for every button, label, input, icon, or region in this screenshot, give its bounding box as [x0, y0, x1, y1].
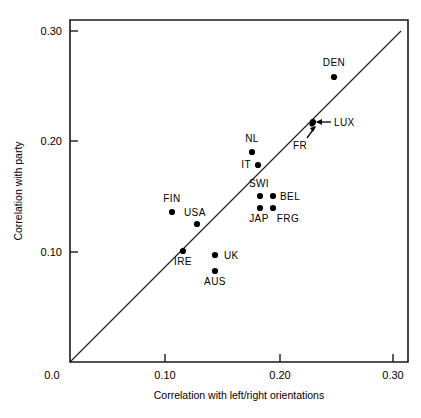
plot-canvas: 0.30 0.20 0.10 0.0 0.10 0.20 0.30 Correl…	[0, 0, 421, 418]
data-point-fin: FIN	[163, 193, 180, 215]
marker-uk	[212, 252, 218, 258]
marker-usa	[194, 221, 200, 227]
marker-den	[331, 74, 337, 80]
point-label-lux: LUX	[334, 117, 355, 128]
scatter-plot-figure: 0.30 0.20 0.10 0.0 0.10 0.20 0.30 Correl…	[0, 0, 421, 418]
y-axis-title: Correlation with party	[12, 141, 24, 241]
data-point-frg: FRG	[270, 205, 299, 224]
marker-aus	[212, 268, 218, 274]
point-label-jap: JAP	[249, 213, 269, 224]
point-label-fr: FR	[293, 140, 307, 151]
data-point-bel: BEL	[270, 191, 300, 202]
x-tick-label-010: 0.10	[154, 369, 175, 381]
y-tick-label-020: 0.20	[41, 135, 62, 147]
data-point-ire: IRE	[174, 248, 192, 267]
data-point-den: DEN	[323, 57, 345, 80]
data-point-lux-fr: LUX FR	[293, 117, 355, 151]
marker-fin	[169, 209, 175, 215]
point-label-aus: AUS	[204, 276, 226, 287]
point-label-nl: NL	[245, 133, 259, 144]
marker-swi	[257, 193, 263, 199]
data-point-uk: UK	[212, 250, 239, 261]
lux-arrow-head	[316, 119, 322, 125]
data-point-aus: AUS	[204, 268, 226, 287]
data-point-swi: SWI	[249, 178, 269, 199]
point-label-uk: UK	[224, 250, 239, 261]
x-axis-ticks	[165, 354, 393, 362]
point-label-frg: FRG	[277, 213, 299, 224]
point-label-bel: BEL	[280, 191, 300, 202]
y-tick-label-030: 0.30	[41, 25, 62, 37]
marker-frg	[270, 205, 276, 211]
data-point-usa: USA	[184, 207, 206, 227]
y-axis-ticks	[70, 31, 78, 252]
marker-nl	[249, 149, 255, 155]
data-point-jap: JAP	[249, 205, 269, 224]
data-point-nl: NL	[245, 133, 259, 155]
marker-bel	[270, 193, 276, 199]
x-tick-label-020: 0.20	[269, 369, 290, 381]
identity-reference-line	[70, 31, 401, 362]
point-label-den: DEN	[323, 57, 345, 68]
y-tick-label-010: 0.10	[41, 246, 62, 258]
x-tick-label-030: 0.30	[382, 369, 403, 381]
point-label-it: IT	[241, 159, 251, 170]
x-axis-title: Correlation with left/right orientations	[154, 389, 324, 401]
marker-ire	[180, 248, 186, 254]
marker-jap	[257, 205, 263, 211]
data-point-it: IT	[241, 159, 261, 170]
point-label-ire: IRE	[174, 256, 192, 267]
marker-fr	[309, 121, 314, 126]
point-label-fin: FIN	[163, 193, 180, 204]
fr-arrow-head	[310, 126, 316, 132]
x-tick-label-00: 0.0	[44, 369, 59, 381]
marker-it	[255, 162, 261, 168]
point-label-usa: USA	[184, 207, 206, 218]
point-label-swi: SWI	[249, 178, 269, 189]
